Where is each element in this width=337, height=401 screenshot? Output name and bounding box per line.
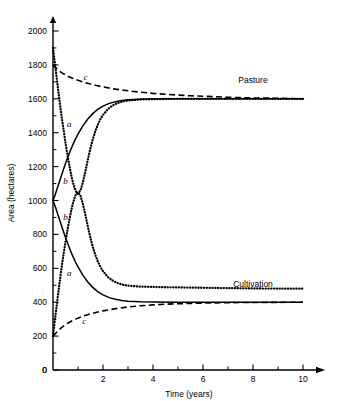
y-tick-label: 1000	[28, 196, 47, 206]
pasture-group-label: Pasture	[238, 75, 268, 85]
curve-label-a-cultivation: a	[67, 268, 72, 278]
y-tick-label: 2000	[28, 26, 47, 36]
series-curve-b-pasture	[53, 99, 303, 201]
curve-label-a-pasture: a	[67, 119, 72, 129]
y-axis-title: Area (hectares)	[6, 164, 16, 223]
chart-figure: 0200400600800100012001400160018002000246…	[0, 0, 337, 401]
curve-label-b-pasture: b	[63, 176, 68, 186]
x-tick-label: 8	[251, 374, 256, 384]
series-curve-a-pasture	[53, 48, 303, 194]
x-tick-label: 2	[101, 374, 106, 384]
x-axis-arrow	[316, 367, 325, 373]
curve-label-c-pasture: c	[84, 72, 88, 82]
x-axis-title: Time (years)	[165, 389, 213, 399]
series-curve-c-cultivation	[53, 302, 303, 336]
y-tick-label: 1200	[28, 162, 47, 172]
x-tick-label: 10	[298, 374, 308, 384]
curve-label-c-cultivation: c	[82, 316, 86, 326]
x-tick-label: 4	[151, 374, 156, 384]
curve-label-b-cultivation: b	[63, 212, 68, 222]
y-tick-label: 600	[33, 263, 47, 273]
y-tick-label: 1800	[28, 60, 47, 70]
x-tick-label: 6	[201, 374, 206, 384]
x-origin-label: 0	[42, 365, 47, 375]
y-tick-label: 1600	[28, 94, 47, 104]
y-tick-label: 400	[33, 297, 47, 307]
series-curve-a-cultivation	[53, 192, 303, 336]
y-tick-label: 800	[33, 229, 47, 239]
area-vs-time-chart: 0200400600800100012001400160018002000246…	[0, 0, 337, 401]
y-tick-label: 200	[33, 331, 47, 341]
y-tick-label: 1400	[28, 128, 47, 138]
y-axis-arrow	[50, 16, 56, 23]
cultivation-group-label: Cultivation	[233, 279, 273, 289]
